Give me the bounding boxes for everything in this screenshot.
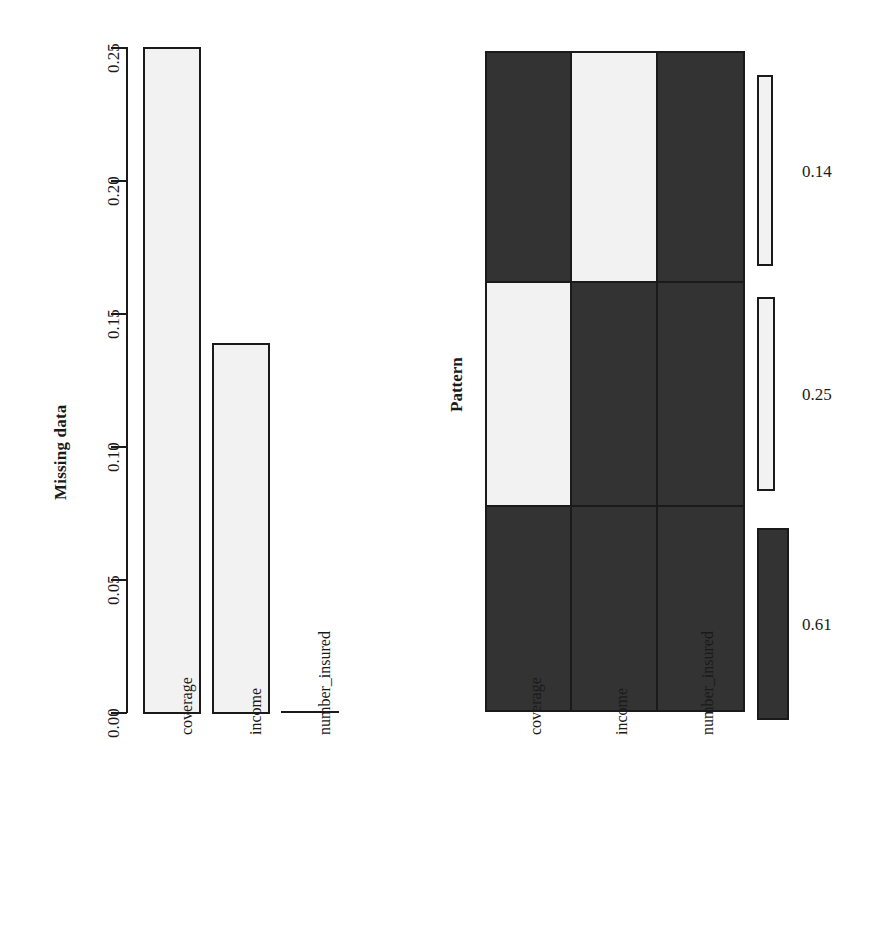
bar-chart-y-axis-line <box>126 47 128 713</box>
bar-coverage <box>143 47 201 714</box>
figure-root: Missing data 0.00 0.05 0.10 0.15 0.20 0.… <box>0 0 870 931</box>
y-tick-label-5: 0.25 <box>105 43 122 73</box>
missing-data-pattern-matrix: Pattern 0.14 0.25 0.61 coverage income n… <box>430 0 870 931</box>
pattern-col-label-number-insured: number_insured <box>700 631 716 735</box>
pattern-y-axis-title: Pattern <box>448 357 465 412</box>
y-tick-label-0: 0.00 <box>105 708 122 738</box>
legend-label-1: 0.25 <box>802 386 832 403</box>
y-tick-label-2: 0.10 <box>105 442 122 472</box>
pattern-cell-r2c1 <box>487 283 572 507</box>
pattern-col-label-coverage: coverage <box>528 677 544 735</box>
pattern-grid <box>485 51 745 712</box>
pattern-cell-r2c3 <box>658 283 743 507</box>
legend-label-2: 0.61 <box>802 616 832 633</box>
bar-label-income: income <box>248 688 264 735</box>
y-tick-label-1: 0.05 <box>105 575 122 605</box>
legend-label-0: 0.14 <box>802 163 832 180</box>
bar-chart-y-axis-title: Missing data <box>52 405 69 500</box>
bar-income <box>212 343 270 714</box>
missing-data-bar-chart: Missing data 0.00 0.05 0.10 0.15 0.20 0.… <box>0 0 430 931</box>
legend-swatch-1 <box>757 297 775 491</box>
pattern-col-label-income: income <box>614 688 630 735</box>
bar-label-coverage: coverage <box>179 677 195 735</box>
legend-swatch-2 <box>757 528 789 720</box>
pattern-cell-r1c1 <box>487 53 572 283</box>
bar-label-number-insured: number_insured <box>317 631 333 735</box>
legend-swatch-0 <box>757 75 773 266</box>
pattern-cell-r1c2 <box>572 53 657 283</box>
y-tick-label-4: 0.20 <box>105 176 122 206</box>
y-tick-label-3: 0.15 <box>105 309 122 339</box>
pattern-cell-r2c2 <box>572 283 657 507</box>
pattern-cell-r1c3 <box>658 53 743 283</box>
pattern-cell-r3c2 <box>572 507 657 710</box>
